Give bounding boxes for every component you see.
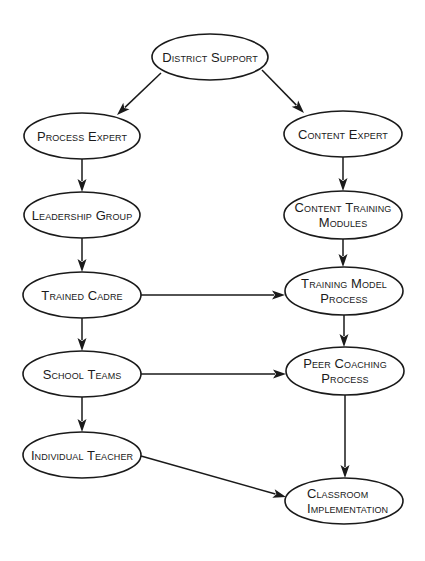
edge-content-training-modules-to-training-model-process [339,239,348,267]
edge-trained-cadre-to-training-model-process [141,291,285,300]
edge-training-model-process-to-peer-coaching-process [340,315,349,347]
node-district-support-ellipse [152,34,268,80]
edge-content-expert-to-content-training-modules [339,157,348,191]
node-school-teams-ellipse [23,351,141,397]
node-classroom-implementation-ellipse [285,478,403,524]
edge-school-teams-to-peer-coaching-process [141,370,286,379]
edge-school-teams-to-individual-teacher [78,397,87,432]
node-trained-cadre-ellipse [23,272,141,318]
edge-district-support-to-process-expert [117,73,161,115]
node-peer-coaching-process-ellipse [286,347,404,395]
flowchart-diagram [0,0,425,561]
node-individual-teacher-ellipse [23,432,141,478]
node-content-training-modules-ellipse [284,191,402,239]
node-training-model-process-ellipse [285,267,403,315]
edge-peer-coaching-process-to-classroom-implementation [341,395,350,478]
edge-leadership-group-to-trained-cadre [78,238,87,272]
edge-line [262,70,296,105]
node-process-expert-ellipse [24,113,140,159]
edge-district-support-to-content-expert [262,70,304,113]
node-leadership-group-ellipse [24,192,140,238]
edge-line [141,456,275,494]
edge-line [125,73,161,107]
nodes-layer [23,34,404,524]
edge-process-expert-to-leadership-group [78,159,87,192]
node-content-expert-ellipse [284,111,402,157]
edge-individual-teacher-to-classroom-implementation [141,456,286,498]
edge-trained-cadre-to-school-teams [78,318,87,351]
